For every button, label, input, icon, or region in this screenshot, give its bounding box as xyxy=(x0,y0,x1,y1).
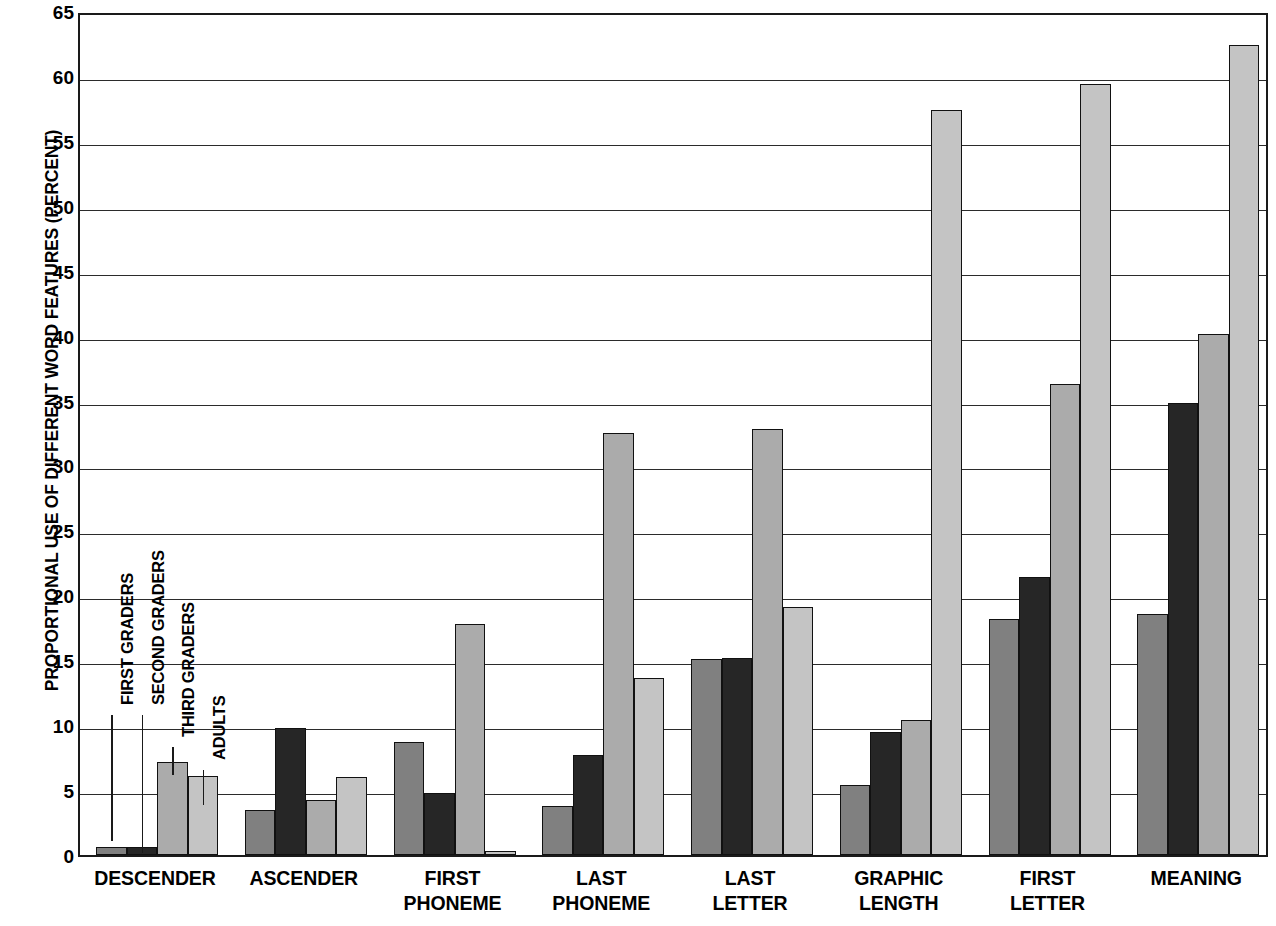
bar-group xyxy=(542,15,664,855)
bar[interactable] xyxy=(306,800,337,855)
bar[interactable] xyxy=(485,851,516,855)
bar[interactable] xyxy=(336,777,367,855)
x-axis-label-line: DESCENDER xyxy=(81,866,230,891)
x-axis-label-line: LETTER xyxy=(676,891,825,916)
bar-chart: PROPORTIONAL USE OF DIFFERENT WORD FEATU… xyxy=(0,0,1276,926)
bar[interactable] xyxy=(989,619,1020,855)
bar-group xyxy=(691,15,813,855)
x-axis-label-descender: DESCENDER xyxy=(81,866,230,891)
bar[interactable] xyxy=(127,847,158,855)
x-axis-label-meaning: MEANING xyxy=(1122,866,1271,891)
bar[interactable] xyxy=(157,762,188,855)
y-axis-tick-15: 15 xyxy=(30,651,74,673)
x-axis-label-line: LAST xyxy=(676,866,825,891)
plot-area: FIRST GRADERSSECOND GRADERSTHIRD GRADERS… xyxy=(78,13,1268,857)
bar[interactable] xyxy=(245,810,276,855)
bar[interactable] xyxy=(634,678,665,855)
y-axis-tick-labels: 05101520253035404550556065 xyxy=(30,0,74,926)
y-axis-tick-50: 50 xyxy=(30,197,74,219)
bar[interactable] xyxy=(96,847,127,855)
bar[interactable] xyxy=(840,785,871,855)
x-axis-label-first-letter: FIRSTLETTER xyxy=(973,866,1122,916)
bar[interactable] xyxy=(752,429,783,855)
x-axis-label-line: PHONEME xyxy=(378,891,527,916)
x-axis-label-first-phoneme: FIRSTPHONEME xyxy=(378,866,527,916)
y-axis-tick-45: 45 xyxy=(30,262,74,284)
x-axis-label-graphic-length: GRAPHICLENGTH xyxy=(824,866,973,916)
bar-group xyxy=(96,15,218,855)
bar[interactable] xyxy=(1229,45,1260,855)
x-axis-label-line: FIRST xyxy=(378,866,527,891)
bar[interactable] xyxy=(424,793,455,855)
bar-group xyxy=(840,15,962,855)
bar[interactable] xyxy=(1080,84,1111,855)
x-axis-label-line: MEANING xyxy=(1122,866,1271,891)
bars-layer xyxy=(80,15,1266,855)
bar[interactable] xyxy=(603,433,634,855)
bar[interactable] xyxy=(1050,384,1081,855)
y-axis-tick-5: 5 xyxy=(30,781,74,803)
y-axis-tick-55: 55 xyxy=(30,132,74,154)
bar[interactable] xyxy=(455,624,486,855)
bar[interactable] xyxy=(783,607,814,855)
x-axis-label-last-phoneme: LASTPHONEME xyxy=(527,866,676,916)
x-axis-label-line: LETTER xyxy=(973,891,1122,916)
x-axis-category-labels: DESCENDERASCENDERFIRSTPHONEMELASTPHONEME… xyxy=(78,866,1268,926)
x-axis-label-line: PHONEME xyxy=(527,891,676,916)
bar-group xyxy=(394,15,516,855)
x-axis-label-line: GRAPHIC xyxy=(824,866,973,891)
x-axis-label-last-letter: LASTLETTER xyxy=(676,866,825,916)
bar[interactable] xyxy=(394,742,425,855)
x-axis-label-line: LAST xyxy=(527,866,676,891)
bar[interactable] xyxy=(931,110,962,855)
x-axis-label-line: LENGTH xyxy=(824,891,973,916)
bar[interactable] xyxy=(691,659,722,855)
bar[interactable] xyxy=(1198,334,1229,855)
bar[interactable] xyxy=(188,776,219,855)
y-axis-tick-65: 65 xyxy=(30,2,74,24)
bar[interactable] xyxy=(1168,403,1199,855)
bar[interactable] xyxy=(1019,577,1050,855)
y-axis-tick-20: 20 xyxy=(30,586,74,608)
bar[interactable] xyxy=(1137,614,1168,856)
bar[interactable] xyxy=(573,755,604,855)
bar[interactable] xyxy=(722,658,753,855)
y-axis-tick-10: 10 xyxy=(30,716,74,738)
y-axis-tick-40: 40 xyxy=(30,327,74,349)
bar[interactable] xyxy=(901,720,932,855)
bar[interactable] xyxy=(870,732,901,855)
x-axis-label-line: FIRST xyxy=(973,866,1122,891)
x-axis-label-line: ASCENDER xyxy=(229,866,378,891)
bar[interactable] xyxy=(542,806,573,855)
bar-group xyxy=(1137,15,1259,855)
y-axis-tick-35: 35 xyxy=(30,392,74,414)
bar[interactable] xyxy=(275,728,306,855)
bar-group xyxy=(989,15,1111,855)
y-axis-tick-25: 25 xyxy=(30,521,74,543)
x-axis-label-ascender: ASCENDER xyxy=(229,866,378,891)
bar-group xyxy=(245,15,367,855)
y-axis-tick-0: 0 xyxy=(30,846,74,868)
y-axis-tick-30: 30 xyxy=(30,456,74,478)
y-axis-tick-60: 60 xyxy=(30,67,74,89)
